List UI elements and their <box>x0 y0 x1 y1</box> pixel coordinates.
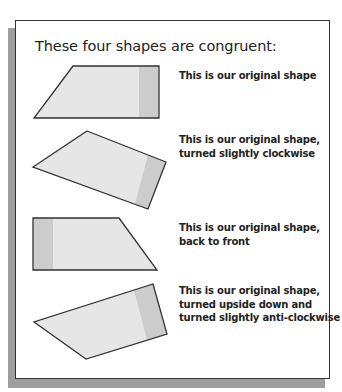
shape-mirrored <box>33 218 157 270</box>
caption-line: This is our original shape <box>179 69 316 83</box>
caption-mirrored: This is our original shape, back to fron… <box>179 221 320 248</box>
shape-original <box>34 66 159 118</box>
caption-line: This is our original shape, <box>179 221 320 235</box>
caption-line: This is our original shape, <box>179 133 320 147</box>
shape-rotated-clockwise <box>33 131 166 209</box>
caption-line: turned slightly anti-clockwise <box>179 311 340 325</box>
caption-line: turned slightly clockwise <box>179 147 320 161</box>
caption-line: turned upside down and <box>179 298 340 312</box>
shape-upside-down-anticlockwise <box>34 284 167 359</box>
caption-original: This is our original shape <box>179 69 316 83</box>
caption-upside-down-anticlockwise: This is our original shape, turned upsid… <box>179 284 340 325</box>
caption-line: This is our original shape, <box>179 284 340 298</box>
caption-rotated-clockwise: This is our original shape, turned sligh… <box>179 133 320 160</box>
caption-line: back to front <box>179 235 320 249</box>
shapes-illustration <box>0 0 342 392</box>
